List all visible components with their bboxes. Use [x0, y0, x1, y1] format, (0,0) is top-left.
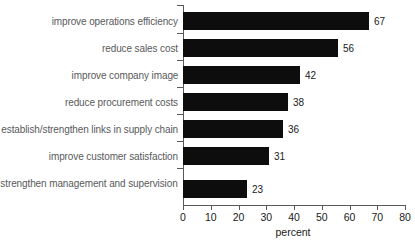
category-label: establish/strengthen links in supply cha… — [1, 123, 178, 135]
x-axis-tick — [266, 205, 267, 210]
category-label: strengthen management and supervision — [1, 177, 178, 189]
x-axis-tick-label: 0 — [180, 211, 186, 223]
x-axis-tick — [377, 205, 378, 210]
x-axis-tick-label: 30 — [260, 211, 272, 223]
x-axis-tick — [322, 205, 323, 210]
bar-value-label: 42 — [305, 69, 316, 81]
bar-value-label: 56 — [343, 42, 354, 54]
bar — [183, 147, 269, 165]
x-axis-tick-label: 10 — [205, 211, 217, 223]
bar — [183, 180, 247, 198]
x-axis-tick — [294, 205, 295, 210]
bar-value-label: 31 — [274, 150, 285, 162]
bar — [183, 12, 369, 30]
x-axis-tick-label: 80 — [399, 211, 411, 223]
bar-value-label: 67 — [374, 15, 385, 27]
category-label: reduce sales cost — [102, 42, 178, 54]
x-axis-tick — [183, 205, 184, 210]
bar-value-label: 36 — [288, 123, 299, 135]
x-axis-tick-label: 60 — [344, 211, 356, 223]
x-axis-tick-label: 50 — [316, 211, 328, 223]
bar — [183, 66, 300, 84]
x-axis-tick — [211, 205, 212, 210]
x-axis-title: percent — [275, 226, 310, 238]
x-axis-tick-label: 20 — [233, 211, 245, 223]
x-axis-tick — [239, 205, 240, 210]
category-label: improve operations efficiency — [52, 15, 178, 27]
x-axis-tick — [350, 205, 351, 210]
bar-value-label: 23 — [252, 183, 263, 195]
bar — [183, 39, 338, 57]
x-axis-tick-label: 70 — [371, 211, 383, 223]
plot-area: 67 56 42 38 36 31 23 — [183, 0, 415, 244]
bar-chart: improve operations efficiency reduce sal… — [0, 0, 415, 244]
x-axis-tick-label: 40 — [288, 211, 300, 223]
x-axis-tick — [405, 205, 406, 210]
bar — [183, 93, 288, 111]
category-label: improve customer satisfaction — [49, 150, 178, 162]
category-label: improve company image — [71, 69, 178, 81]
bar-value-label: 38 — [293, 96, 304, 108]
bar — [183, 120, 283, 138]
category-label: reduce procurement costs — [65, 96, 178, 108]
